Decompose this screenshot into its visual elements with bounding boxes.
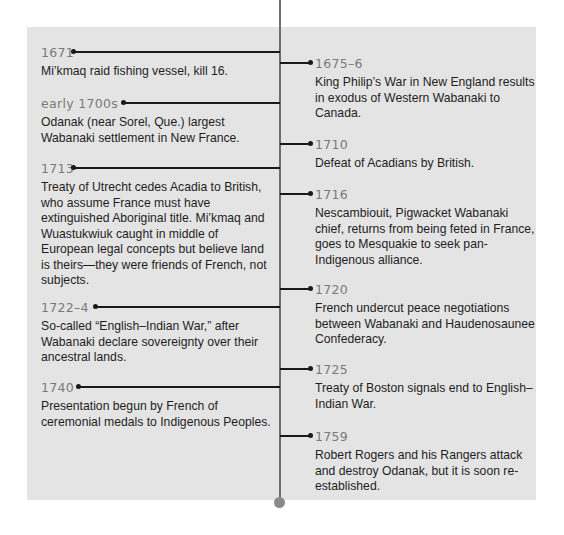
timeline-event-1722-4: 1722–4 So-called “English–Indian War,” a… bbox=[41, 298, 271, 366]
connector-line bbox=[73, 167, 280, 169]
event-description: Nescambiouit, Pigwacket Wabanaki chief, … bbox=[315, 206, 540, 268]
event-description: Treaty of Boston signals end to English–… bbox=[315, 381, 540, 412]
event-year: 1671 bbox=[41, 45, 74, 61]
event-description: Mi’kmaq raid fishing vessel, kill 16. bbox=[41, 64, 271, 80]
connector-line bbox=[73, 51, 280, 53]
timeline-event-1671: 1671 Mi’kmaq raid fishing vessel, kill 1… bbox=[41, 43, 271, 80]
event-description: So-called “English–Indian War,” after Wa… bbox=[41, 319, 271, 366]
bullet-dot-icon bbox=[308, 191, 313, 196]
event-description: Presentation begun by French of ceremoni… bbox=[41, 399, 271, 430]
event-year: 1710 bbox=[315, 137, 348, 153]
connector-line bbox=[78, 386, 280, 388]
connector-line bbox=[95, 306, 280, 308]
connector-line bbox=[280, 62, 310, 64]
connector-line bbox=[280, 368, 310, 370]
connector-line bbox=[280, 435, 310, 437]
timeline-event-1675-6: 1675–6 King Philip’s War in New England … bbox=[315, 54, 540, 122]
event-year: early 1700s bbox=[41, 96, 118, 112]
timeline-event-1710: 1710 Defeat of Acadians by British. bbox=[315, 135, 540, 172]
timeline-event-1713: 1713 Treaty of Utrecht cedes Acadia to B… bbox=[41, 159, 271, 289]
bullet-dot-icon bbox=[308, 433, 313, 438]
event-year: 1725 bbox=[315, 362, 348, 378]
bullet-dot-icon bbox=[308, 366, 313, 371]
connector-line bbox=[280, 193, 310, 195]
event-year: 1759 bbox=[315, 429, 348, 445]
connector-line bbox=[123, 102, 280, 104]
event-year: 1740 bbox=[41, 380, 74, 396]
timeline-event-1759: 1759 Robert Rogers and his Rangers attac… bbox=[315, 427, 540, 495]
event-year: 1720 bbox=[315, 282, 348, 298]
event-description: Odanak (near Sorel, Que.) largest Wabana… bbox=[41, 115, 271, 146]
timeline-event-1716: 1716 Nescambiouit, Pigwacket Wabanaki ch… bbox=[315, 185, 540, 268]
bullet-dot-icon bbox=[308, 286, 313, 291]
bullet-dot-icon bbox=[308, 60, 313, 65]
event-year: 1716 bbox=[315, 187, 348, 203]
event-description: Treaty of Utrecht cedes Acadia to Britis… bbox=[41, 180, 271, 289]
timeline-event-1725: 1725 Treaty of Boston signals end to Eng… bbox=[315, 360, 540, 412]
bullet-dot-icon bbox=[308, 141, 313, 146]
event-description: King Philip’s War in New England results… bbox=[315, 75, 540, 122]
event-year: 1722–4 bbox=[41, 300, 89, 316]
event-description: French undercut peace negotiations betwe… bbox=[315, 301, 540, 348]
event-year: 1713 bbox=[41, 161, 74, 177]
timeline-event-1720: 1720 French undercut peace negotiations … bbox=[315, 280, 540, 348]
event-description: Robert Rogers and his Rangers attack and… bbox=[315, 448, 540, 495]
timeline-spine bbox=[279, 0, 281, 502]
event-year: 1675–6 bbox=[315, 56, 363, 72]
event-description: Defeat of Acadians by British. bbox=[315, 156, 540, 172]
connector-line bbox=[280, 288, 310, 290]
timeline-end-dot-icon bbox=[274, 497, 285, 508]
connector-line bbox=[280, 143, 310, 145]
